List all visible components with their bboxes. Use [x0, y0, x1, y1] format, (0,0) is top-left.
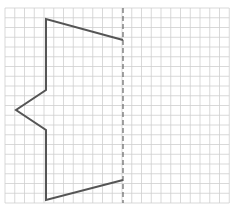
half-shape-outline: [16, 19, 123, 200]
grid-diagram: [0, 0, 234, 206]
grid-lines: [5, 8, 229, 203]
